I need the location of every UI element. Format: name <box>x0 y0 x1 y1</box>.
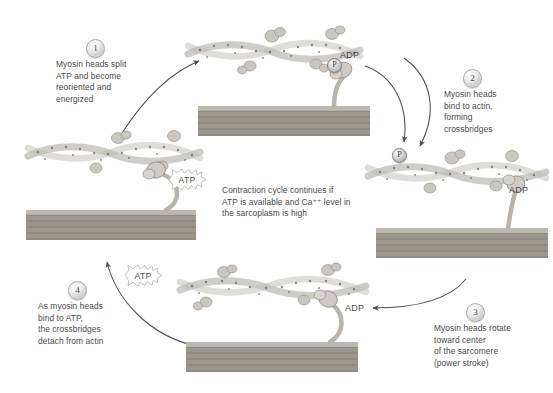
center-note-line-2: ATP is available and Ca⁺⁺ level in <box>222 197 382 209</box>
myosin-thick-filament-right <box>376 228 548 258</box>
actin-thin-filament-bottom <box>180 263 366 310</box>
adp-label-right: ADP <box>509 185 528 195</box>
step-caption-1: Myosin heads split ATP and become reorie… <box>56 59 166 105</box>
step-4-line-4: detach from actin <box>38 336 150 348</box>
step-2-line-2: bind to actin, <box>444 101 544 113</box>
step-1-line-3: reoriented and <box>56 82 166 94</box>
step-4-line-2: bind to ATP, <box>38 313 150 325</box>
actin-thin-filament-left <box>28 131 200 174</box>
step-1-line-4: energized <box>56 94 166 106</box>
phosphate-circle-top: P <box>327 58 342 73</box>
step-1-line-1: Myosin heads split <box>56 59 166 71</box>
step-2-line-3: forming <box>444 112 544 124</box>
filament-unit-bottom <box>178 262 368 372</box>
adp-label-top: ADP <box>340 50 359 60</box>
step-3-line-1: Myosin heads rotate <box>434 323 550 335</box>
step-3-line-3: of the sarcomere <box>434 346 550 358</box>
step-2-line-4: crossbridges <box>444 124 544 136</box>
step-caption-4: As myosin heads bind to ATP, the crossbr… <box>38 301 150 347</box>
step-2-line-1: Myosin heads <box>444 89 544 101</box>
step-badge-2: 2 <box>463 69 482 88</box>
step-3-line-2: toward center <box>434 335 550 347</box>
myosin-thick-filament-bottom <box>186 342 358 372</box>
center-note-line-1: Contraction cycle continues if <box>222 185 382 197</box>
step-badge-4: 4 <box>68 281 87 300</box>
atp-label-left: ATP <box>166 168 208 191</box>
myosin-crossbridge-right <box>503 175 525 228</box>
filament-unit-top <box>184 18 370 136</box>
adp-label-bottom: ADP <box>345 303 364 313</box>
myosin-thick-filament-left <box>26 210 196 240</box>
atp-burst-lower: ATP <box>122 264 164 287</box>
center-note: Contraction cycle continues if ATP is av… <box>222 185 382 220</box>
step-badge-1: 1 <box>86 39 105 58</box>
step-3-line-4: (power stroke) <box>434 358 550 370</box>
step-caption-2: Myosin heads bind to actin, forming cros… <box>444 89 544 135</box>
step-4-line-3: the crossbridges <box>38 324 150 336</box>
atp-burst-left: ATP <box>166 168 208 191</box>
filament-unit-right <box>366 146 548 258</box>
contraction-cycle-diagram: P ADP <box>0 0 553 393</box>
center-note-line-3: the sarcoplasm is high <box>222 208 382 220</box>
myosin-thick-filament-top <box>198 106 370 136</box>
step-caption-3: Myosin heads rotate toward center of the… <box>434 323 550 369</box>
step-badge-3: 3 <box>466 303 485 322</box>
atp-label-lower: ATP <box>122 264 164 287</box>
step-1-line-2: ATP and become <box>56 71 166 83</box>
step-4-line-1: As myosin heads <box>38 301 150 313</box>
phosphate-circle-released: P <box>392 148 407 163</box>
